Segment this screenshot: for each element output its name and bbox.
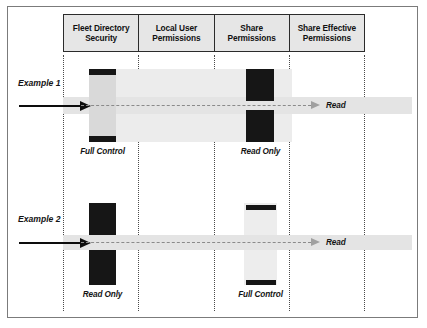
diagram-stage: Fleet Directory Security Local User Perm… bbox=[8, 7, 417, 317]
example-1-input-arrow-shaft bbox=[19, 105, 81, 107]
example-2-fleet-caption: Read Only bbox=[74, 290, 131, 299]
example-1-share-bar-upper bbox=[246, 69, 274, 101]
column-guide-1 bbox=[63, 55, 64, 311]
column-header-row: Fleet Directory Security Local User Perm… bbox=[63, 14, 365, 52]
example-1-share-caption: Read Only bbox=[232, 147, 289, 156]
example-2-input-arrow-shaft bbox=[19, 242, 81, 244]
column-header-share-effective-permissions: Share Effective Permissions bbox=[290, 15, 364, 51]
header-line-1: Share Effective bbox=[298, 23, 356, 33]
header-line-1: Fleet Directory bbox=[73, 23, 130, 33]
example-1-fleet-bar-cap-bottom bbox=[89, 136, 116, 142]
example-1-share-bar-lower bbox=[246, 110, 274, 142]
header-line-2: Permissions bbox=[228, 33, 276, 43]
example-1-result-label: Read bbox=[326, 101, 346, 110]
example-1-fleet-bar-cap-top bbox=[89, 69, 116, 75]
example-2-share-bar-cap-top bbox=[246, 205, 276, 210]
header-line-2: Security bbox=[85, 33, 117, 43]
example-2-fleet-bar-lower bbox=[89, 250, 116, 285]
example-1-flow-line bbox=[81, 105, 311, 106]
example-2-share-bar-cap-bottom bbox=[246, 280, 276, 285]
example-2-flow-arrowhead bbox=[311, 238, 320, 246]
example-2-row-label: Example 2 bbox=[18, 214, 61, 224]
example-2-result-label: Read bbox=[326, 238, 346, 247]
example-2-fleet-bar-upper bbox=[89, 203, 116, 235]
header-line-1: Share bbox=[240, 23, 263, 33]
example-2-flow-line bbox=[81, 242, 311, 243]
header-line-2: Permissions bbox=[303, 33, 351, 43]
example-1-flow-arrowhead bbox=[311, 101, 320, 109]
example-2-share-caption: Full Control bbox=[232, 290, 289, 299]
column-header-share-permissions: Share Permissions bbox=[215, 15, 290, 51]
example-1-row-label: Example 1 bbox=[18, 78, 61, 88]
header-line-2: Permissions bbox=[152, 33, 200, 43]
diagram-frame: Fleet Directory Security Local User Perm… bbox=[7, 6, 418, 318]
header-line-1: Local User bbox=[156, 23, 197, 33]
example-1-fleet-caption: Full Control bbox=[74, 147, 131, 156]
column-header-fleet-directory-security: Fleet Directory Security bbox=[64, 15, 139, 51]
column-guide-5 bbox=[364, 55, 365, 311]
column-header-local-user-permissions: Local User Permissions bbox=[139, 15, 214, 51]
